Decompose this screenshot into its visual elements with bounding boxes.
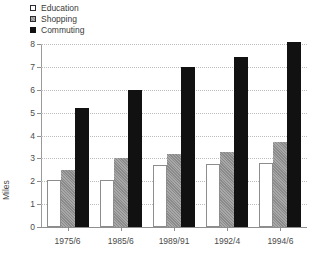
legend-swatch-shopping-icon [30, 16, 36, 22]
y-tick-label: 1 [30, 200, 35, 209]
legend-label-education: Education [41, 4, 79, 13]
bar-education [259, 163, 273, 227]
bar-chart: Education Shopping Commuting Miles 01234… [0, 0, 317, 260]
bar-group [201, 44, 254, 227]
x-tick-label: 1992/4 [214, 236, 240, 246]
y-tick-label: 7 [30, 62, 35, 71]
plot-area: 012345678 1975/61985/61989/911992/41994/… [41, 44, 307, 227]
legend-swatch-commuting-icon [30, 27, 36, 33]
x-tick-label: 1994/6 [267, 236, 293, 246]
x-tick-mark [68, 227, 69, 231]
y-axis-title: Miles [2, 180, 11, 200]
bar-education [100, 180, 114, 227]
bar-group [147, 44, 200, 227]
x-tick-mark [227, 227, 228, 231]
bar-education [47, 180, 61, 227]
y-tick-label: 8 [30, 40, 35, 49]
legend-item-shopping: Shopping [30, 14, 84, 24]
bar-shopping [114, 158, 128, 227]
x-tick-mark [121, 227, 122, 231]
bar-group [94, 44, 147, 227]
y-tick-label: 4 [30, 131, 35, 140]
y-tick-label: 6 [30, 85, 35, 94]
x-tick-mark [174, 227, 175, 231]
chart-legend: Education Shopping Commuting [30, 3, 84, 35]
bar-shopping [167, 154, 181, 227]
y-tick-label: 0 [30, 223, 35, 232]
y-tick-label: 3 [30, 154, 35, 163]
bar-commuting [75, 108, 89, 227]
bar-shopping [273, 142, 287, 227]
bar-group [41, 44, 94, 227]
bar-commuting [128, 90, 142, 227]
legend-label-shopping: Shopping [41, 15, 77, 24]
legend-label-commuting: Commuting [41, 26, 84, 35]
x-tick-label: 1985/6 [108, 236, 134, 246]
x-tick-mark [280, 227, 281, 231]
bar-shopping [220, 152, 234, 227]
x-tick-label: 1975/6 [55, 236, 81, 246]
x-tick-label: 1989/91 [159, 236, 190, 246]
bar-commuting [181, 67, 195, 227]
legend-item-commuting: Commuting [30, 25, 84, 35]
y-tick-label: 2 [30, 177, 35, 186]
bar-education [153, 165, 167, 227]
legend-swatch-education-icon [30, 5, 36, 11]
y-tick-mark [37, 227, 41, 228]
bar-education [206, 164, 220, 227]
bar-commuting [234, 57, 248, 227]
y-tick-label: 5 [30, 108, 35, 117]
bar-group [254, 44, 307, 227]
bar-commuting [287, 42, 301, 227]
bar-shopping [61, 170, 75, 227]
legend-item-education: Education [30, 3, 84, 13]
